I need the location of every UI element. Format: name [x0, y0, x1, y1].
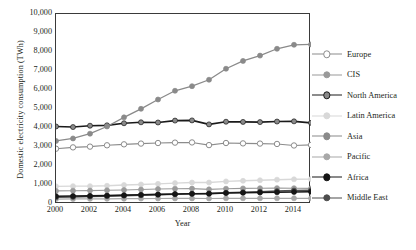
legend-swatch-icon — [312, 49, 342, 60]
data-point — [291, 143, 296, 148]
legend-marker-icon — [323, 92, 330, 99]
series-line — [56, 179, 311, 186]
data-point — [71, 125, 76, 130]
series-line — [56, 192, 311, 196]
data-point — [138, 141, 143, 146]
legend-label: CIS — [347, 70, 360, 79]
y-tick-label: 3,000 — [2, 142, 52, 150]
legend-item-latin-america[interactable]: Latin America — [312, 106, 416, 127]
x-axis-title: Year — [55, 219, 310, 228]
chart-figure: Domestic electricity consumption (TWh) 0… — [0, 0, 416, 250]
data-point — [70, 145, 75, 150]
legend-item-middle-east[interactable]: Middle East — [312, 188, 416, 209]
data-point — [122, 121, 127, 126]
data-point — [241, 58, 246, 63]
data-point — [156, 192, 161, 197]
data-point — [105, 193, 110, 198]
data-point — [207, 180, 212, 185]
data-point — [173, 186, 178, 191]
data-point — [104, 143, 109, 148]
data-point — [309, 196, 312, 201]
data-point — [241, 119, 246, 124]
data-point — [122, 187, 127, 192]
data-point — [309, 42, 312, 47]
legend-marker-icon — [323, 51, 330, 58]
data-point — [88, 193, 93, 198]
legend-swatch-icon — [312, 131, 342, 142]
data-point — [88, 123, 93, 128]
data-point — [105, 188, 110, 193]
series-line — [56, 44, 311, 141]
legend-item-africa[interactable]: Africa — [312, 167, 416, 188]
x-axis-tick-labels: 20002002200420062008201020122014 — [55, 205, 310, 217]
data-point — [241, 178, 246, 183]
data-point — [207, 77, 212, 82]
data-point — [71, 136, 76, 141]
data-point — [309, 120, 312, 125]
data-point — [139, 120, 144, 125]
data-point — [56, 138, 59, 143]
data-point — [190, 191, 195, 196]
legend-item-europe[interactable]: Europe — [312, 44, 416, 65]
data-point — [292, 177, 297, 182]
data-point — [190, 186, 195, 191]
data-point — [71, 188, 76, 193]
data-point — [224, 66, 229, 71]
data-point — [224, 119, 229, 124]
legend-item-pacific[interactable]: Pacific — [312, 147, 416, 168]
data-point — [308, 142, 311, 147]
data-point — [206, 142, 211, 147]
data-point — [274, 141, 279, 146]
legend-item-cis[interactable]: CIS — [312, 65, 416, 86]
chart-svg — [56, 14, 311, 204]
y-tick-label: 1,000 — [2, 180, 52, 188]
data-point — [190, 180, 195, 185]
data-point — [139, 106, 144, 111]
x-tick-label: 2012 — [242, 205, 276, 214]
legend-item-north-america[interactable]: North America — [312, 85, 416, 106]
data-point — [258, 178, 263, 183]
legend-marker-icon — [323, 112, 330, 119]
data-point — [292, 42, 297, 47]
data-point — [173, 88, 178, 93]
data-point — [71, 194, 76, 199]
series-latin-america — [56, 177, 311, 189]
x-tick-label: 2006 — [140, 205, 174, 214]
data-point — [292, 119, 297, 124]
data-point — [156, 97, 161, 102]
y-tick-label: 8,000 — [2, 47, 52, 55]
legend-swatch-icon — [312, 192, 342, 203]
series-line — [56, 198, 311, 199]
legend-swatch-icon — [312, 69, 342, 80]
y-axis-tick-labels: 01,0002,0003,0004,0005,0006,0007,0008,00… — [0, 13, 52, 203]
data-point — [241, 196, 246, 201]
plot-area — [55, 13, 310, 203]
y-tick-label: 5,000 — [2, 104, 52, 112]
data-point — [173, 118, 178, 123]
legend-item-asia[interactable]: Asia — [312, 126, 416, 147]
data-point — [258, 190, 263, 195]
y-tick-label: 9,000 — [2, 28, 52, 36]
data-point — [275, 119, 280, 124]
x-tick-label: 2008 — [174, 205, 208, 214]
series-europe — [56, 140, 311, 152]
series-asia — [56, 42, 311, 144]
data-point — [156, 120, 161, 125]
series-north-america — [56, 118, 311, 130]
legend-marker-icon — [323, 174, 330, 181]
data-point — [275, 190, 280, 195]
data-point — [309, 189, 312, 194]
legend-swatch-icon — [312, 172, 342, 183]
data-point — [257, 141, 262, 146]
legend-marker-icon — [323, 153, 330, 160]
legend-swatch-icon — [312, 90, 342, 101]
x-tick-label: 2004 — [106, 205, 140, 214]
chart-legend: EuropeCISNorth AmericaLatin AmericaAsiaP… — [312, 44, 416, 208]
x-tick-label: 2000 — [38, 205, 72, 214]
data-point — [172, 140, 177, 145]
data-point — [292, 196, 297, 201]
legend-marker-icon — [323, 133, 330, 140]
legend-label: Asia — [347, 132, 362, 141]
data-point — [224, 196, 229, 201]
data-point — [56, 124, 59, 129]
